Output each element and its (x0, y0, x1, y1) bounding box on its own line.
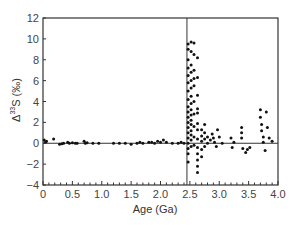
data-point (193, 144, 196, 147)
data-point (130, 143, 133, 146)
data-point (209, 139, 212, 142)
data-point (203, 123, 206, 126)
x-tick-label: 3.5 (241, 188, 256, 200)
data-point (196, 94, 199, 97)
x-axis-title: Age (Ga) (133, 203, 178, 215)
x-axis: 00.51.01.52.02.53.03.54.0 (40, 181, 286, 200)
data-point (147, 141, 150, 144)
y-tick-label: −4 (26, 179, 39, 191)
data-point (203, 131, 206, 134)
data-point (138, 141, 141, 144)
data-point (260, 123, 263, 126)
data-point (200, 134, 203, 137)
data-point (206, 136, 209, 139)
data-point (241, 147, 244, 150)
y-axis-title-rest: S (‰) (10, 78, 22, 107)
data-point (196, 76, 199, 79)
data-point (190, 114, 193, 117)
data-point (190, 133, 193, 136)
data-point (216, 128, 219, 131)
data-point (150, 141, 153, 144)
data-point (196, 112, 199, 115)
data-point (190, 86, 193, 89)
data-point (97, 142, 100, 145)
data-point (193, 100, 196, 103)
data-point (187, 67, 190, 70)
y-tick-label: 8 (33, 54, 39, 66)
data-point (190, 50, 193, 53)
data-point (45, 140, 48, 143)
data-point (86, 141, 89, 144)
data-point (196, 146, 199, 149)
data-point (196, 56, 199, 59)
data-point (271, 140, 274, 143)
data-point (118, 142, 121, 145)
data-points (43, 41, 274, 175)
data-point (62, 142, 65, 145)
y-axis-title-sup: 33 (9, 107, 16, 115)
data-point (262, 136, 265, 139)
data-point (259, 108, 262, 111)
data-point (187, 152, 190, 155)
data-point (240, 126, 243, 129)
y-axis: −4−2024681012 (26, 12, 46, 191)
data-point (171, 142, 174, 145)
reference-lines (43, 18, 278, 185)
data-point (196, 138, 199, 141)
data-point (193, 136, 196, 139)
data-point (203, 138, 206, 141)
y-tick-label: 2 (33, 116, 39, 128)
data-point (232, 141, 235, 144)
data-point (215, 145, 218, 148)
data-point (187, 81, 190, 84)
data-point (259, 116, 262, 119)
data-point (156, 140, 159, 143)
data-point (193, 113, 196, 116)
data-point (193, 84, 196, 87)
data-point (268, 137, 271, 140)
plot-frame (43, 18, 278, 185)
data-point (193, 53, 196, 56)
data-point (71, 141, 74, 144)
data-point (240, 137, 243, 140)
data-point (187, 131, 190, 134)
x-tick-label: 1.5 (123, 188, 138, 200)
scatter-chart: 00.51.01.52.02.53.03.54.0 −4−2024681012 … (0, 0, 296, 225)
data-point (190, 95, 193, 98)
data-point (196, 158, 199, 161)
data-point (187, 121, 190, 124)
x-tick-label: 2.5 (182, 188, 197, 200)
y-axis-title: Δ33S (‰) (9, 78, 22, 122)
data-point (136, 142, 139, 145)
data-point (187, 74, 190, 77)
data-point (187, 161, 190, 164)
data-point (230, 137, 233, 140)
data-point (187, 142, 190, 145)
x-tick-label: 1.0 (94, 188, 109, 200)
data-point (193, 77, 196, 80)
data-point (240, 131, 243, 134)
data-point (244, 151, 247, 154)
data-point (196, 128, 199, 131)
data-point (190, 64, 193, 67)
data-point (196, 165, 199, 168)
data-point (200, 148, 203, 151)
data-point (266, 126, 269, 129)
data-point (190, 71, 193, 74)
data-point (187, 105, 190, 108)
data-point (183, 142, 186, 145)
data-point (196, 171, 199, 174)
data-point (187, 98, 190, 101)
data-point (187, 90, 190, 93)
data-point (52, 138, 55, 141)
data-point (190, 129, 193, 132)
x-tick-label: 3.0 (212, 188, 227, 200)
data-point (212, 137, 215, 140)
data-point (203, 145, 206, 148)
data-point (91, 142, 94, 145)
data-point (262, 141, 265, 144)
data-point (187, 48, 190, 51)
data-point (196, 152, 199, 155)
data-point (180, 141, 183, 144)
data-point (190, 123, 193, 126)
